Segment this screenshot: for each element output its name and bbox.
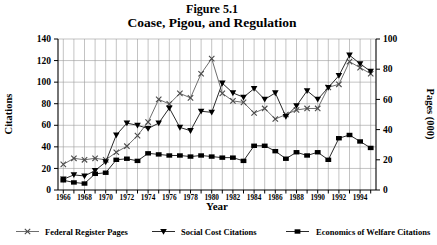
square-marker [294, 150, 300, 154]
series-line [63, 135, 370, 184]
square-marker [368, 146, 374, 150]
legend-label: Economics of Welfare Citations [316, 227, 431, 237]
triangle-down-marker [314, 97, 321, 103]
square-marker [295, 229, 301, 233]
square-marker [241, 159, 247, 163]
chart-title-line2: Coase, Pigou, and Regulation [127, 15, 297, 30]
square-marker [103, 171, 109, 175]
y-left-tick-label: 80 [42, 99, 52, 109]
y-right-tick-label: 60 [383, 95, 393, 105]
x-tick-label: 1994 [353, 193, 368, 202]
square-marker [251, 144, 257, 148]
y-right-tick-label: 100 [383, 34, 398, 44]
square-marker [113, 158, 119, 162]
triangle-down-marker [261, 97, 268, 103]
y-left-tick-label: 120 [37, 56, 52, 66]
series-line [63, 59, 370, 165]
series-economics-of-welfare-citations [60, 133, 373, 186]
square-marker [124, 157, 130, 161]
gridlines [58, 39, 376, 190]
triangle-down-marker [81, 173, 88, 179]
x-tick-label: 1966 [56, 193, 71, 202]
y-right-tick-label: 20 [383, 155, 393, 165]
y-left-tick-label: 40 [42, 142, 52, 152]
square-marker [177, 153, 183, 157]
square-marker [82, 181, 88, 185]
square-marker [145, 151, 151, 155]
x-tick-label: 1970 [98, 193, 113, 202]
legend-item-economics-of-welfare-citations: Economics of Welfare Citations [286, 227, 431, 237]
triangle-down-marker [113, 132, 120, 138]
figure-5-1-chart: Figure 5.1 Coase, Pigou, and Regulation … [0, 0, 437, 245]
square-marker [230, 155, 236, 159]
x-tick-label: 1978 [183, 193, 198, 202]
triangle-down-marker [208, 110, 215, 116]
y-left-tick-label: 0 [46, 185, 51, 195]
square-marker [262, 144, 268, 148]
x-tick-label: 1974 [141, 193, 156, 202]
x-tick-label: 1972 [120, 193, 135, 202]
triangle-down-marker [272, 90, 279, 96]
square-marker [272, 149, 278, 153]
y-left-tick-label: 60 [42, 120, 52, 130]
y-left-tick-label: 20 [42, 164, 52, 174]
y-right-tick-label: 80 [383, 64, 393, 74]
x-tick-label: 1988 [289, 193, 304, 202]
x-tick-label: 1992 [332, 193, 347, 202]
legend: Federal Register PagesSocial Cost Citati… [16, 227, 431, 237]
square-marker [71, 180, 77, 184]
y-axis-right-title: Pages (000) [424, 88, 436, 140]
x-axis-title: Year [206, 200, 228, 212]
x-tick-label: 1984 [247, 193, 262, 202]
square-marker [336, 136, 342, 140]
series-line [63, 55, 370, 179]
square-marker [357, 139, 363, 143]
axes [54, 39, 380, 194]
square-marker [283, 157, 289, 161]
y-left-tick-label: 140 [37, 34, 52, 44]
legend-item-federal-register-pages: Federal Register Pages [16, 227, 129, 237]
legend-label: Social Cost Citations [181, 227, 257, 237]
square-marker [325, 158, 331, 162]
series-social-cost-citations [60, 53, 374, 183]
legend-item-social-cost-citations: Social Cost Citations [152, 227, 257, 237]
triangle-down-marker [230, 90, 237, 96]
square-marker [166, 153, 172, 157]
square-marker [156, 152, 162, 156]
axis-tick-labels: 0204060801001201400204060801001966196819… [37, 34, 398, 201]
x-tick-label: 1968 [77, 193, 92, 202]
data-series [60, 53, 374, 186]
square-marker [315, 150, 321, 154]
x-tick-label: 1986 [268, 193, 283, 202]
chart-canvas: Figure 5.1 Coase, Pigou, and Regulation … [0, 0, 437, 245]
square-marker [209, 154, 215, 158]
triangle-down-marker [166, 105, 173, 111]
square-marker [347, 133, 353, 137]
triangle-down-marker [145, 126, 152, 132]
square-marker [198, 153, 204, 157]
square-marker [188, 154, 194, 158]
triangle-down-marker [187, 128, 194, 134]
y-axis-left-title: Citations [3, 94, 14, 135]
y-right-tick-label: 0 [383, 185, 388, 195]
chart-title-line1: Figure 5.1 [186, 2, 238, 16]
y-left-tick-label: 100 [37, 77, 52, 87]
y-right-tick-label: 40 [383, 125, 393, 135]
series-federal-register-pages [61, 56, 374, 167]
legend-label: Federal Register Pages [45, 227, 129, 237]
x-tick-label: 1976 [162, 193, 177, 202]
square-marker [304, 153, 310, 157]
square-marker [135, 159, 141, 163]
square-marker [219, 155, 225, 159]
x-tick-label: 1990 [310, 193, 325, 202]
